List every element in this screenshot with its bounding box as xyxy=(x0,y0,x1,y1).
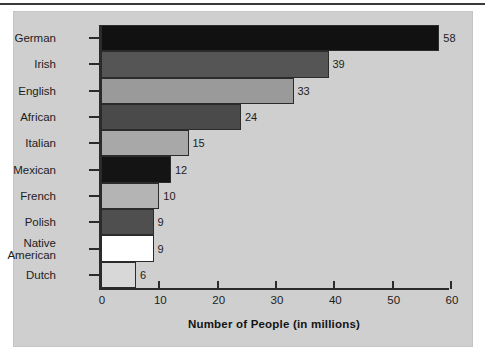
x-axis-line xyxy=(99,288,449,290)
category-label-italian: Italian xyxy=(0,137,56,149)
category-tick xyxy=(89,248,100,250)
bar-row: 33 xyxy=(101,78,451,104)
bar-row: 12 xyxy=(101,156,451,182)
category-tick xyxy=(89,142,100,144)
x-tick xyxy=(392,281,394,289)
bar xyxy=(101,183,159,209)
x-tick-label: 60 xyxy=(432,294,472,306)
chart-page: GermanIrishEnglishAfricanItalianMexicanF… xyxy=(0,0,485,361)
bar-value-label: 6 xyxy=(136,269,146,281)
category-tick xyxy=(89,195,100,197)
bar-row: 15 xyxy=(101,130,451,156)
bar-row: 10 xyxy=(101,183,451,209)
page-top-rule xyxy=(0,3,485,5)
bar-value-label: 33 xyxy=(294,85,310,97)
bar xyxy=(101,235,154,261)
category-tick xyxy=(89,169,100,171)
bar-value-label: 10 xyxy=(159,190,175,202)
category-label-irish: Irish xyxy=(0,58,56,70)
bar-row: 24 xyxy=(101,104,451,130)
category-label-mexican: Mexican xyxy=(0,164,56,176)
x-tick-label: 20 xyxy=(199,294,239,306)
bar-group: 58393324151210996 xyxy=(101,25,451,288)
category-tick xyxy=(89,221,100,223)
x-axis-title: Number of People (in millions) xyxy=(99,318,449,330)
bar-row: 9 xyxy=(101,235,451,261)
bar xyxy=(101,156,171,182)
bar xyxy=(101,262,136,288)
x-tick xyxy=(275,281,277,289)
category-label-french: French xyxy=(0,190,56,202)
bar-value-label: 24 xyxy=(241,111,257,123)
category-tick xyxy=(89,63,100,65)
category-label-african: African xyxy=(0,111,56,123)
bar-value-label: 9 xyxy=(154,243,164,255)
bar xyxy=(101,51,329,77)
category-label-polish: Polish xyxy=(0,216,56,228)
category-label-dutch: Dutch xyxy=(0,269,56,281)
bar xyxy=(101,25,439,51)
bar xyxy=(101,209,154,235)
x-tick-label: 50 xyxy=(374,294,414,306)
bar-row: 9 xyxy=(101,209,451,235)
bar xyxy=(101,104,241,130)
x-tick xyxy=(158,281,160,289)
bar-row: 39 xyxy=(101,51,451,77)
category-label-native-american: NativeAmerican xyxy=(0,237,56,261)
bar-value-label: 12 xyxy=(171,164,187,176)
category-label-english: English xyxy=(0,85,56,97)
category-tick xyxy=(89,37,100,39)
bar-value-label: 9 xyxy=(154,216,164,228)
category-tick xyxy=(89,274,100,276)
x-tick-label: 30 xyxy=(257,294,297,306)
bar xyxy=(101,130,189,156)
category-label-german: German xyxy=(0,32,56,44)
x-tick xyxy=(333,281,335,289)
bar-value-label: 58 xyxy=(439,32,455,44)
bar xyxy=(101,78,294,104)
x-tick-label: 0 xyxy=(82,294,122,306)
x-tick xyxy=(217,281,219,289)
chart-plate: GermanIrishEnglishAfricanItalianMexicanF… xyxy=(13,11,473,347)
bar-value-label: 39 xyxy=(329,58,345,70)
bar-value-label: 15 xyxy=(189,137,205,149)
x-tick-label: 10 xyxy=(140,294,180,306)
category-tick xyxy=(89,116,100,118)
category-tick xyxy=(89,90,100,92)
x-tick xyxy=(100,281,102,289)
bar-row: 58 xyxy=(101,25,451,51)
x-tick-label: 40 xyxy=(315,294,355,306)
x-tick xyxy=(450,281,452,289)
plot-area: GermanIrishEnglishAfricanItalianMexicanF… xyxy=(13,11,473,347)
